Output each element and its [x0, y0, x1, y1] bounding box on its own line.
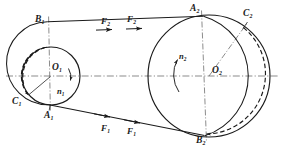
leader-o1-c1 — [29, 77, 51, 95]
point-label-b2-sub: 2 — [202, 140, 205, 146]
center-label-o1: O1 — [52, 63, 62, 73]
force-label-f1-a-sub: 1 — [107, 128, 110, 134]
point-label-c2: C2 — [243, 9, 252, 19]
speed-label-n2: n2 — [179, 52, 186, 61]
point-label-b2: B2 — [196, 136, 205, 146]
force-arrow-f2-b — [126, 28, 142, 29]
point-label-b1: B1 — [35, 15, 44, 25]
force-arrow-f2-a — [96, 30, 112, 31]
point-label-a1-sub: 1 — [50, 115, 53, 121]
center-label-o1-base: O — [52, 62, 59, 72]
speed-label-n1: n1 — [57, 87, 64, 96]
point-label-c1-sub: 1 — [18, 101, 21, 107]
force-label-f1-b: F1 — [127, 127, 136, 136]
force-label-f2-b-sub: 2 — [133, 19, 136, 25]
point-label-c1: C1 — [12, 97, 21, 107]
slip-arc-large — [207, 28, 266, 134]
point-label-a2: A2 — [190, 4, 199, 14]
force-arrow-f1-b — [124, 120, 140, 123]
point-label-a2-sub: 2 — [196, 8, 199, 14]
force-label-f1-b-sub: 1 — [133, 131, 136, 137]
center-label-o2: O2 — [212, 66, 222, 76]
force-label-f2-a-sub: 2 — [107, 21, 110, 27]
force-label-f2-b: F2 — [127, 15, 136, 24]
center-label-o2-base: O — [212, 65, 219, 75]
figure-canvas: B1 C1 A1 A2 C2 B2 O1 O2 n1 n2 F2 F2 F1 F… — [0, 0, 284, 153]
force-label-f2-a: F2 — [101, 17, 110, 26]
centerline-a2-b2 — [202, 11, 207, 143]
center-label-o2-sub: 2 — [219, 70, 222, 76]
force-label-f1-a: F1 — [101, 124, 110, 133]
point-label-c2-sub: 2 — [249, 13, 252, 19]
centerline-b1-a1 — [49, 17, 51, 112]
point-label-b1-sub: 1 — [41, 19, 44, 25]
slip-arcs — [21, 28, 265, 134]
belt-upper-run — [47, 16, 203, 22]
rotation-arc-n1 — [69, 69, 71, 81]
force-arrow-f1-a — [94, 114, 110, 117]
point-label-a1: A1 — [44, 111, 53, 121]
center-label-o1-sub: 1 — [59, 67, 62, 73]
